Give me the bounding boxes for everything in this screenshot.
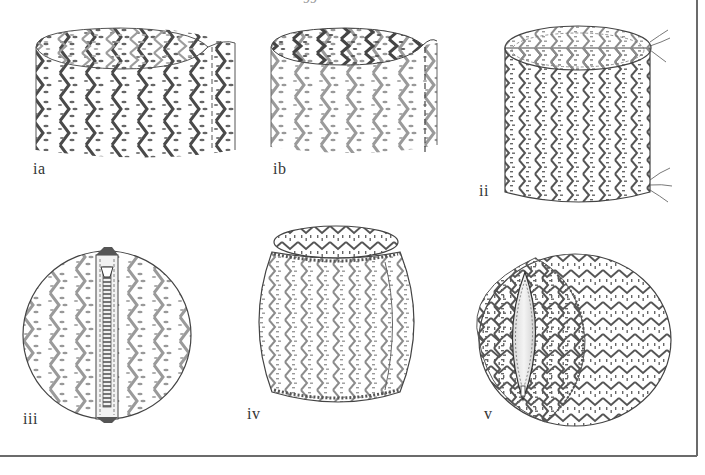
gathered-cushion-cover bbox=[259, 226, 414, 402]
page-number: 99 bbox=[303, 0, 317, 7]
figure-label-ib: ib bbox=[273, 160, 286, 178]
round-cushion bbox=[477, 254, 671, 426]
gathering-threads-bottom bbox=[650, 168, 672, 202]
figure-label-ia: ia bbox=[33, 160, 46, 178]
zipper bbox=[96, 247, 118, 423]
figure-v bbox=[475, 250, 675, 430]
figure-label-iii: iii bbox=[23, 410, 38, 428]
figure-ia bbox=[30, 25, 240, 170]
frame-border-right bbox=[696, 0, 698, 456]
figure-iii bbox=[20, 245, 195, 425]
fabric-tube-open bbox=[36, 28, 235, 158]
frame-border-bottom bbox=[0, 455, 697, 457]
cylinder-cover bbox=[505, 26, 651, 202]
figure-ii bbox=[500, 20, 680, 210]
fabric-tube-stitched bbox=[271, 28, 437, 153]
figure-iv bbox=[250, 222, 430, 412]
figure-label-iv: iv bbox=[247, 405, 260, 423]
gathering-threads-top bbox=[650, 30, 670, 62]
figure-ib bbox=[265, 25, 445, 160]
figure-label-v: v bbox=[484, 405, 493, 423]
figure-label-ii: ii bbox=[479, 182, 489, 200]
